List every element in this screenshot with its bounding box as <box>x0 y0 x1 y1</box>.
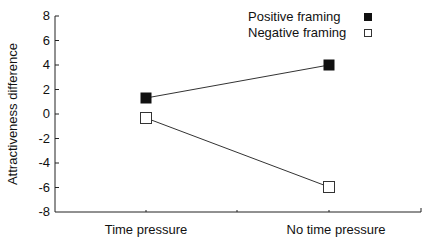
x-label-no-time-pressure: No time pressure <box>287 222 386 237</box>
y-tick-labels: 8 6 4 2 0 -2 -4 -6 -8 <box>38 8 50 219</box>
positive-framing-line <box>146 65 329 98</box>
negative-marker-no-time-pressure <box>324 182 335 193</box>
chart: 8 6 4 2 0 -2 -4 -6 -8 Attractiveness dif… <box>0 0 429 246</box>
negative-framing-line <box>146 118 329 187</box>
svg-text:8: 8 <box>43 8 50 23</box>
positive-marker-time-pressure <box>141 93 152 104</box>
legend-positive-label: Positive framing <box>248 9 340 24</box>
legend-open-square-icon <box>365 30 372 37</box>
x-label-time-pressure: Time pressure <box>105 222 188 237</box>
svg-text:0: 0 <box>43 106 50 121</box>
svg-text:-8: -8 <box>38 204 50 219</box>
svg-text:-2: -2 <box>38 131 50 146</box>
y-ticks <box>55 16 59 188</box>
y-axis-label: Attractiveness difference <box>5 43 20 185</box>
svg-text:-4: -4 <box>38 155 50 170</box>
legend: Positive framing Negative framing <box>248 9 372 40</box>
legend-filled-square-icon <box>364 13 372 21</box>
negative-marker-time-pressure <box>141 113 152 124</box>
svg-text:-6: -6 <box>38 180 50 195</box>
legend-negative-label: Negative framing <box>248 25 346 40</box>
positive-marker-no-time-pressure <box>324 60 335 71</box>
svg-text:2: 2 <box>43 82 50 97</box>
svg-text:6: 6 <box>43 33 50 48</box>
svg-text:4: 4 <box>43 57 50 72</box>
